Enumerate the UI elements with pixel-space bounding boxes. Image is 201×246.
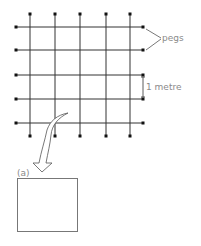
inset-label: (a) bbox=[17, 168, 30, 178]
grid-lines bbox=[16, 14, 143, 136]
arrow-icon bbox=[33, 113, 68, 172]
pegs-pointer bbox=[146, 29, 161, 50]
metre-label: 1 metre bbox=[146, 82, 182, 92]
grid-diagram: pegs 1 metre (a) bbox=[0, 0, 201, 246]
inset-box bbox=[18, 179, 78, 232]
pegs-label: pegs bbox=[162, 33, 184, 43]
metre-dimension bbox=[141, 77, 145, 97]
